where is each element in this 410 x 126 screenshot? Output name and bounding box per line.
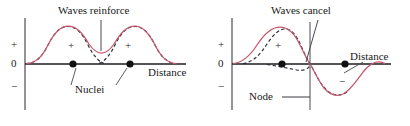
destructive-plot-graphics xyxy=(205,0,410,126)
x-axis-label-distance: Distance xyxy=(350,51,388,62)
region-sign-positive: + xyxy=(275,40,281,51)
callout-nuclei: Nuclei xyxy=(75,84,104,95)
nucleus-marker-right xyxy=(341,60,348,67)
nucleus-marker-left xyxy=(278,60,285,67)
y-tick-minus: − xyxy=(218,81,224,92)
panel-destructive-interference: + 0 − + − Waves cancel Node Distance xyxy=(205,0,410,126)
callout-waves-reinforce: Waves reinforce xyxy=(58,5,130,16)
atomic-wave-left-dashed xyxy=(243,29,347,95)
waves-cancel-leader-line xyxy=(306,20,318,62)
nucleus-marker-left xyxy=(69,60,76,67)
y-tick-plus: + xyxy=(11,39,17,50)
nuclei-leader-line-right xyxy=(116,68,127,85)
y-tick-plus: + xyxy=(218,39,224,50)
region-sign-negative: − xyxy=(339,76,345,87)
region-sign-positive-right: + xyxy=(125,40,131,51)
y-tick-zero: 0 xyxy=(11,58,17,69)
x-axis-label-distance: Distance xyxy=(148,67,186,78)
y-tick-zero: 0 xyxy=(218,58,224,69)
panel-constructive-interference: + 0 − + + Waves reinforce Nuclei Distanc… xyxy=(0,0,205,126)
y-tick-minus: − xyxy=(11,81,17,92)
nucleus-marker-right xyxy=(126,60,133,67)
callout-waves-cancel: Waves cancel xyxy=(271,5,331,16)
atomic-wave-right-dashed xyxy=(99,27,177,64)
interference-figure: + 0 − + + Waves reinforce Nuclei Distanc… xyxy=(0,0,410,126)
atomic-wave-right-dashed xyxy=(267,64,310,70)
constructive-plot-graphics xyxy=(0,0,205,126)
atomic-wave-left-dashed xyxy=(26,27,104,64)
callout-node: Node xyxy=(249,91,273,102)
region-sign-positive-left: + xyxy=(68,40,74,51)
